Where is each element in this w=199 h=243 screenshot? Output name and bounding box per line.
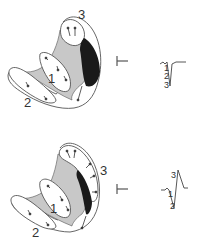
region-label-3: 3 (100, 164, 107, 177)
region-label-2: 2 (24, 96, 31, 109)
lead-electrode-icon (117, 56, 128, 66)
heart-ventricle-diagram-bottom (0, 120, 199, 243)
region-label-1: 1 (48, 72, 55, 85)
region-label-2: 2 (32, 226, 39, 239)
diagram-panel-top: 3 1 2 1 2 3 (0, 0, 199, 120)
diagram-panel-bottom: 3 1 2 3 1 2 (0, 120, 199, 243)
region-label-3: 3 (78, 8, 85, 21)
ecg-label-3: 3 (164, 81, 169, 90)
ecg-label-1: 1 (168, 190, 173, 199)
lead-electrode-icon (117, 184, 128, 194)
region-label-1: 1 (50, 202, 57, 215)
ecg-label-2: 2 (170, 202, 175, 211)
ecg-label-3: 3 (171, 171, 176, 180)
